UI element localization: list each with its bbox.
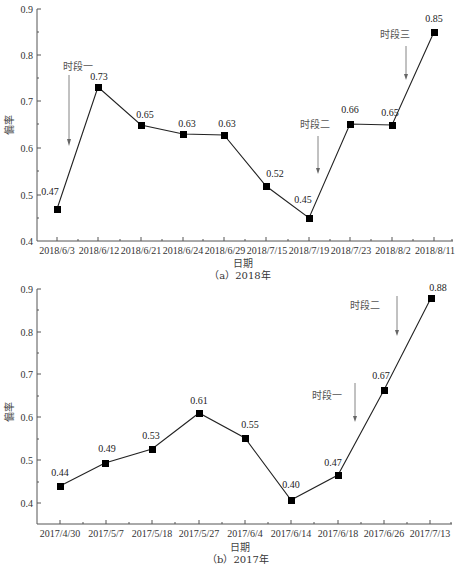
chart-a-value-label: 0.73 [90, 71, 108, 82]
chart-a-ytick: 0.5 [21, 190, 34, 201]
chart-b-value-label: 0.47 [324, 457, 342, 468]
chart-a-value-label: 0.85 [425, 13, 443, 24]
chart-a-annotation-period-3: 时段三 [380, 28, 410, 40]
chart-a-xtick: 2018/7/19 [289, 245, 330, 256]
data-point [95, 84, 102, 91]
data-point [102, 460, 109, 467]
chart-b-series-line [60, 298, 431, 500]
chart-b-xtick: 2017/6/4 [227, 528, 263, 539]
data-point [306, 215, 313, 222]
data-point [347, 121, 354, 128]
chart-a-x-ticks [57, 237, 452, 241]
chart-a-xtick: 2018/8/11 [415, 245, 455, 256]
chart-b-xtick: 2017/4/30 [40, 528, 81, 539]
chart-a-ytick: 0.4 [21, 236, 34, 247]
chart-b-xtick: 2017/6/18 [318, 528, 359, 539]
chart-b-value-label: 0.40 [282, 479, 300, 490]
arrow-down-icon [395, 296, 399, 336]
chart-a-ylabel: 偏率 [3, 115, 15, 135]
chart-a-xtick: 2018/7/23 [331, 245, 372, 256]
chart-a-xtick: 2018/6/12 [79, 245, 120, 256]
data-point [263, 183, 270, 190]
data-point [428, 295, 435, 302]
chart-b-value-label: 0.44 [51, 467, 69, 478]
chart-a-annotation-period-2: 时段二 [300, 118, 330, 130]
chart-a-value-label: 0.52 [266, 168, 284, 179]
chart-b-xtick: 2017/5/7 [88, 528, 124, 539]
chart-a-value-label: 0.47 [41, 186, 59, 197]
chart-a-xtick: 2018/6/24 [163, 245, 204, 256]
chart-b-value-label: 0.49 [98, 443, 116, 454]
chart-a-value-label: 0.66 [341, 104, 359, 115]
chart-b-ytick: 0.4 [21, 498, 34, 509]
chart-a-xtick: 2018/8/2 [375, 245, 411, 256]
data-point [180, 131, 187, 138]
chart-b-ytick: 0.5 [21, 455, 34, 466]
arrow-down-icon [316, 136, 320, 174]
chart-a-value-label: 0.45 [294, 194, 312, 205]
chart-b-value-label: 0.55 [241, 419, 259, 430]
chart-b-value-label: 0.88 [429, 282, 447, 293]
data-point [335, 472, 342, 479]
chart-b-ytick: 0.7 [21, 369, 34, 380]
chart-b-ytick: 0.8 [21, 327, 34, 338]
data-point [221, 132, 228, 139]
chart-b-xtick: 2017/5/18 [132, 528, 173, 539]
chart-a-value-label: 0.65 [136, 109, 154, 120]
chart-b-xtick: 2017/5/27 [179, 528, 220, 539]
data-point [138, 122, 145, 129]
chart-b-x-ticks [60, 520, 451, 524]
data-point [54, 206, 61, 213]
arrow-down-icon [404, 46, 408, 80]
data-point [389, 122, 396, 129]
chart-b-ytick: 0.9 [21, 284, 34, 295]
chart-b-annotation-period-2: 时段二 [350, 299, 380, 311]
chart-b-annotation-period-1: 时段一 [312, 389, 342, 401]
chart-a-series-line [57, 32, 434, 218]
chart-b-y-ticks [37, 289, 41, 503]
chart-b-ytick: 0.6 [21, 412, 34, 423]
chart-b-value-label: 0.67 [372, 370, 390, 381]
chart-b-xtick: 2017/7/13 [410, 528, 451, 539]
chart-a-xtick: 2018/7/15 [247, 245, 288, 256]
data-point [196, 410, 203, 417]
chart-a-xlabel: 日期 [233, 258, 253, 269]
figure: 0.9 0.8 0.7 0.6 0.5 0.4 偏率 [0, 0, 463, 574]
chart-b: 0.9 0.8 0.7 0.6 0.5 0.4 偏率 [3, 282, 452, 565]
chart-b-xtick: 2017/6/26 [364, 528, 405, 539]
chart-b-ylabel: 偏率 [3, 402, 15, 422]
chart-b-xlabel: 日期 [230, 542, 250, 553]
chart-a-ytick: 0.8 [21, 50, 34, 61]
chart-a-value-label: 0.63 [178, 118, 196, 129]
chart-b-caption: （b）2017年 [207, 553, 269, 565]
chart-a-ytick: 0.6 [21, 143, 34, 154]
arrow-down-icon [67, 75, 71, 146]
chart-a-ytick: 0.7 [21, 96, 34, 107]
data-point [431, 29, 438, 36]
chart-a-caption: （a）2018年 [209, 269, 270, 281]
chart-b-value-label: 0.61 [190, 395, 208, 406]
arrow-down-icon [353, 383, 357, 422]
data-point [57, 483, 64, 490]
chart-b-xtick: 2017/6/14 [271, 528, 312, 539]
chart-a-markers [54, 29, 438, 222]
chart-a-annotation-period-1: 时段一 [63, 60, 93, 72]
data-point [288, 497, 295, 504]
chart-a-xtick: 2018/6/29 [205, 245, 246, 256]
data-point [149, 446, 156, 453]
chart-b-value-label: 0.53 [142, 430, 160, 441]
data-point [242, 435, 249, 442]
chart-a-xtick: 2018/6/21 [121, 245, 162, 256]
chart-a-value-label: 0.65 [381, 107, 399, 118]
chart-a-ytick: 0.9 [21, 4, 34, 15]
chart-a-xtick: 2018/6/3 [39, 245, 75, 256]
chart-a: 0.9 0.8 0.7 0.6 0.5 0.4 偏率 [3, 4, 455, 281]
data-point [381, 387, 388, 394]
chart-a-value-label: 0.63 [218, 118, 236, 129]
